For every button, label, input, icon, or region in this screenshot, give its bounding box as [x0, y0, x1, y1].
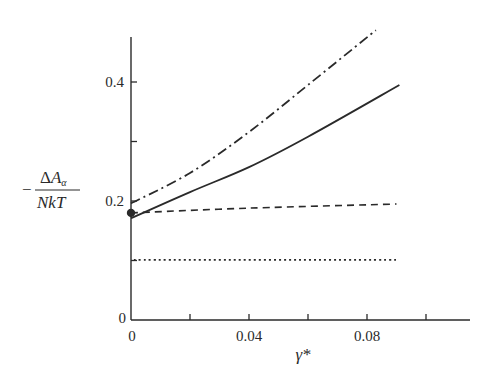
numerator-subscript: α — [61, 177, 67, 188]
start-point-marker — [127, 209, 135, 217]
x-tick-label-0-08: 0.08 — [354, 328, 380, 344]
y-axis-label-numerator: ΔAα — [40, 168, 67, 188]
series-group — [127, 30, 400, 260]
y-tick-label-0-2: 0.2 — [105, 193, 124, 209]
numerator-var: A — [50, 168, 62, 187]
chart: 0.4 0.2 0 0 0.04 0.08 γ* − ΔAα NkT — [0, 0, 486, 376]
x-axis-label: γ* — [295, 345, 311, 364]
axes — [131, 37, 470, 320]
y-axis-label-denominator: NkT — [36, 193, 67, 212]
y-axis-label-sign: − — [22, 180, 32, 199]
x-tick-label-0-04: 0.04 — [236, 328, 263, 344]
y-axis-label: − ΔAα NkT — [22, 168, 80, 212]
y-tick-label-0-4: 0.4 — [105, 74, 124, 90]
series-dashed-line — [131, 204, 397, 213]
series-solid-line — [131, 85, 399, 218]
delta-symbol: Δ — [40, 168, 51, 187]
y-tick-label-0: 0 — [119, 310, 127, 326]
series-dashdot-line — [131, 30, 376, 203]
x-tick-label-0: 0 — [128, 328, 136, 344]
